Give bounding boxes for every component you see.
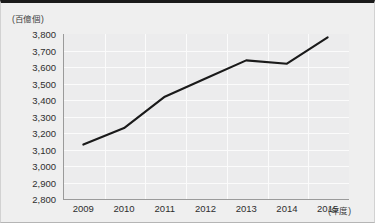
x-axis-tick-label: 2015: [306, 203, 350, 214]
y-axis-tick-label: 2,800: [10, 194, 56, 205]
y-axis-unit-caption: (百億個): [12, 12, 44, 24]
gridline-horizontal: [64, 150, 349, 151]
y-axis-tick-label: 3,000: [10, 161, 56, 172]
gridline-vertical: [145, 34, 146, 199]
x-axis-tick-label: 2012: [184, 203, 228, 214]
x-axis-tick-label: 2011: [143, 203, 187, 214]
gridline-vertical: [186, 34, 187, 199]
gridline-horizontal: [64, 133, 349, 134]
gridline-horizontal: [64, 51, 349, 52]
y-axis-tick-label: 3,700: [10, 45, 56, 56]
x-axis-tick-label: 2010: [102, 203, 146, 214]
x-axis-tick-label: 2009: [61, 203, 105, 214]
gridline-horizontal: [64, 183, 349, 184]
y-axis-tick-label: 3,600: [10, 62, 56, 73]
gridline-vertical: [227, 34, 228, 199]
plot-area: [63, 34, 349, 200]
gridline-vertical: [268, 34, 269, 199]
gridline-horizontal: [64, 67, 349, 68]
gridline-horizontal: [64, 84, 349, 85]
gridline-vertical: [105, 34, 106, 199]
y-axis-tick-label: 2,900: [10, 177, 56, 188]
y-axis-tick-label: 3,100: [10, 144, 56, 155]
gridline-horizontal: [64, 166, 349, 167]
x-axis-tick-label: 2014: [265, 203, 309, 214]
y-axis-tick-label: 3,400: [10, 95, 56, 106]
chart-figure: (百億個) (年度) 3,8003,7003,6003,5003,4003,30…: [0, 0, 375, 223]
gridline-vertical: [308, 34, 309, 199]
y-axis-tick-label: 3,200: [10, 128, 56, 139]
y-axis-tick-label: 3,500: [10, 78, 56, 89]
y-axis-tick-label: 3,300: [10, 111, 56, 122]
gridline-horizontal: [64, 100, 349, 101]
gridline-horizontal: [64, 117, 349, 118]
x-axis-tick-label: 2013: [224, 203, 268, 214]
y-axis-tick-label: 3,800: [10, 29, 56, 40]
